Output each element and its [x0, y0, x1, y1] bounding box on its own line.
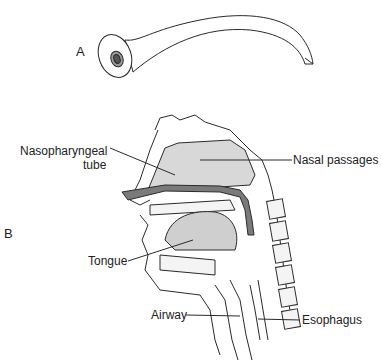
label-nasopharyngeal-tube-2: tube: [83, 159, 106, 172]
nasopharyngeal-tube-illustration: [92, 16, 313, 83]
label-nasopharyngeal-tube-1: Nasopharyngeal: [20, 145, 107, 158]
label-esophagus: Esophagus: [302, 314, 362, 327]
diagram-canvas: [0, 0, 381, 363]
label-tongue: Tongue: [88, 255, 127, 268]
label-airway: Airway: [151, 309, 187, 322]
panel-b-label: B: [4, 226, 13, 241]
panel-a-label: A: [76, 44, 85, 59]
label-nasal-passages: Nasal passages: [293, 154, 378, 167]
head-section-illustration: [110, 115, 300, 360]
